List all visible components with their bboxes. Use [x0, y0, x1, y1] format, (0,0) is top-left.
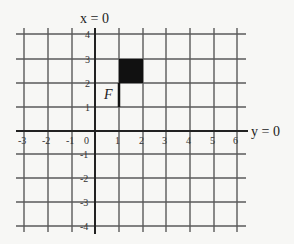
svg-text:5: 5	[210, 135, 215, 146]
svg-text:-3: -3	[80, 197, 88, 208]
svg-text:-4: -4	[80, 221, 88, 232]
svg-text:4: 4	[85, 29, 90, 40]
x-tick-labels: -3 -2 -1 0 1 2 3 4 5 6	[18, 135, 238, 146]
svg-text:2: 2	[85, 78, 90, 89]
svg-text:3: 3	[85, 54, 90, 65]
svg-text:-1: -1	[66, 135, 74, 146]
svg-text:0: 0	[84, 135, 89, 146]
svg-text:-2: -2	[80, 173, 88, 184]
figure-f-label: F	[103, 87, 113, 102]
vertical-axis-label: x = 0	[80, 11, 109, 26]
svg-text:1: 1	[85, 102, 90, 113]
svg-text:6: 6	[233, 135, 238, 146]
svg-text:-1: -1	[80, 149, 88, 160]
svg-text:-3: -3	[18, 135, 26, 146]
svg-text:3: 3	[162, 135, 167, 146]
figure-f-square	[119, 59, 143, 83]
svg-text:-2: -2	[42, 135, 50, 146]
coordinate-grid: F x = 0 y = 0 -3 -2 -1 0 1 2 3 4 5 6 4 3…	[0, 0, 294, 244]
horizontal-axis-label: y = 0	[251, 124, 280, 139]
svg-text:4: 4	[186, 135, 191, 146]
svg-text:1: 1	[115, 135, 120, 146]
svg-text:2: 2	[139, 135, 144, 146]
